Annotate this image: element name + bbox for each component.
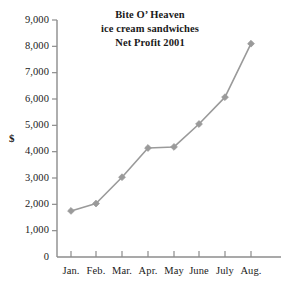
chart-title-line-2: ice cream sandwiches — [85, 24, 215, 35]
y-axis-tick-label: 3,000 — [25, 173, 49, 184]
y-axis-tick-label: 5,000 — [25, 120, 49, 131]
data-point-marker-aug — [248, 40, 255, 47]
y-axis-tick-label: 1,000 — [25, 225, 49, 236]
chart-axes — [57, 20, 281, 257]
net-profit-line — [71, 44, 251, 211]
y-axis-label-dollar: $ — [9, 133, 15, 144]
x-axis-tick-label: Aug. — [231, 266, 271, 277]
chart-title-line-3: Net Profit 2001 — [85, 38, 215, 49]
chart-container: Bite O’ Heaven ice cream sandwiches Net … — [0, 0, 285, 288]
y-axis-tick-label: 6,000 — [25, 94, 49, 105]
y-axis-tick-label: 2,000 — [25, 199, 49, 210]
y-axis-tick-label: 8,000 — [25, 41, 49, 52]
data-point-marker-jan — [68, 208, 75, 215]
chart-title-line-1: Bite O’ Heaven — [85, 10, 215, 21]
y-axis-tick-label: 9,000 — [25, 15, 49, 26]
data-line-net-profit — [71, 44, 251, 211]
data-markers-group — [68, 40, 255, 214]
y-axis-tick-label: 0 — [44, 252, 49, 263]
y-axis-tick-label: 7,000 — [25, 67, 49, 78]
chart-tick-marks — [52, 20, 251, 257]
y-axis-tick-label: 4,000 — [25, 146, 49, 157]
